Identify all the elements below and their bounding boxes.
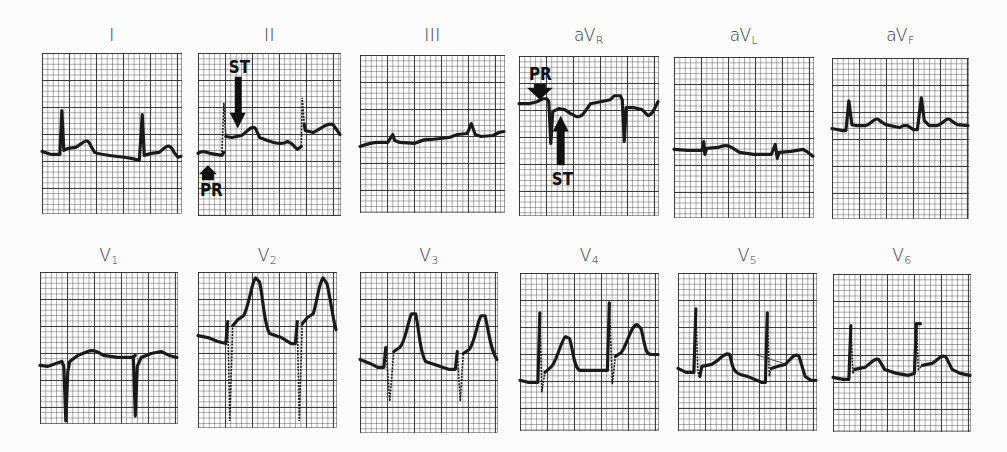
lead-label-V4: V4 xyxy=(520,245,659,267)
waveform-aVF xyxy=(832,58,968,218)
lead-label-V6: V6 xyxy=(833,245,971,267)
ecg-strip-V5 xyxy=(678,273,817,431)
waveform-V5 xyxy=(678,273,816,430)
pr-arrow-up-icon xyxy=(199,165,217,180)
waveform-aVR: PR ST xyxy=(519,56,658,215)
waveform-II: ST PR xyxy=(198,53,340,215)
waveform-V3 xyxy=(360,272,497,432)
st-annotation-II: ST xyxy=(229,57,251,77)
ecg-strip-I xyxy=(42,53,182,214)
lead-V1-panel: V1 xyxy=(40,245,178,424)
lead-label-I: I xyxy=(42,25,182,47)
lead-label-aVL: aVL xyxy=(674,25,814,47)
lead-label-V1: V1 xyxy=(40,245,178,267)
ecg-strip-V6 xyxy=(833,274,971,432)
ecg-strip-aVR: PR ST xyxy=(519,56,659,216)
ecg-strip-V3 xyxy=(360,272,498,433)
ecg-strip-III xyxy=(360,55,505,213)
waveform-III xyxy=(360,55,504,212)
pr-annotation-II: PR xyxy=(200,180,223,200)
ecg-strip-II: ST PR xyxy=(198,53,341,216)
waveform-V1 xyxy=(40,272,177,423)
ecg-strip-V1 xyxy=(40,272,178,424)
st-arrow-down-icon xyxy=(230,77,246,129)
lead-V6-panel: V6 xyxy=(833,245,971,432)
lead-label-V5: V5 xyxy=(678,245,817,267)
ecg-strip-aVL xyxy=(674,57,814,218)
st-annotation-aVR: ST xyxy=(552,169,574,189)
lead-label-II: II xyxy=(198,25,341,47)
lead-I-panel: I xyxy=(42,22,182,214)
lead-V4-panel: V4 xyxy=(520,245,659,431)
pr-annotation-aVR: PR xyxy=(529,64,552,84)
st-arrow-up-icon xyxy=(553,116,569,166)
lead-label-aVR: aVR xyxy=(519,25,659,47)
pr-arrow-down-icon xyxy=(527,84,553,100)
waveform-I xyxy=(42,53,181,213)
lead-label-V3: V3 xyxy=(360,245,498,267)
ecg-strip-V2 xyxy=(198,272,337,428)
lead-label-V2: V2 xyxy=(198,245,337,267)
lead-label-III: III xyxy=(360,25,505,47)
waveform-V2 xyxy=(198,272,336,427)
lead-III-panel: III xyxy=(360,22,505,213)
ecg-strip-V4 xyxy=(520,273,659,431)
waveform-V4 xyxy=(520,273,658,430)
lead-aVF-panel: aVF xyxy=(832,22,969,219)
lead-aVL-panel: aVL xyxy=(674,22,814,218)
lead-aVR-panel: aVR PR ST xyxy=(519,22,659,216)
lead-V5-panel: V5 xyxy=(678,245,817,431)
waveform-aVL xyxy=(674,57,813,217)
ecg-strip-aVF xyxy=(832,58,969,219)
waveform-V6 xyxy=(833,274,970,431)
lead-label-aVF: aVF xyxy=(832,25,969,47)
lead-V3-panel: V3 xyxy=(360,245,498,433)
lead-V2-panel: V2 xyxy=(198,245,337,428)
artifact-line xyxy=(755,354,787,364)
lead-II-panel: II ST PR xyxy=(198,22,341,216)
